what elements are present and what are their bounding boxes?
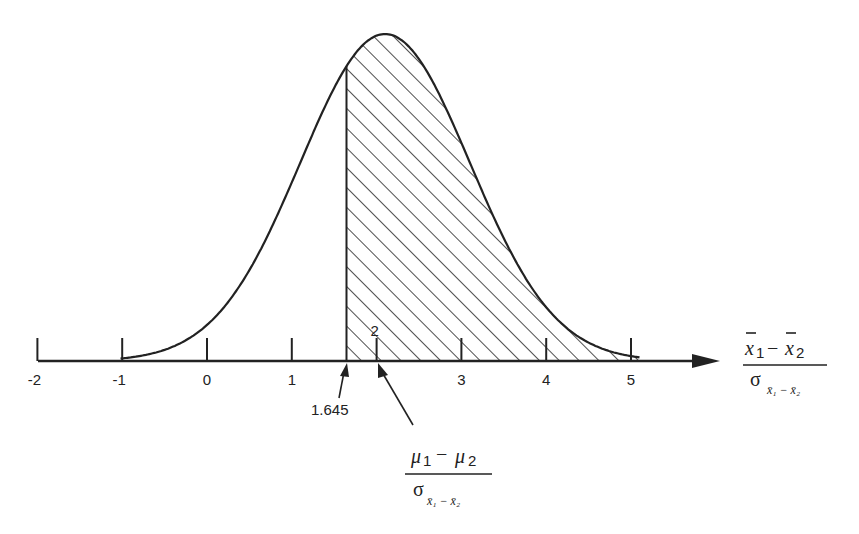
mu2: μ — [454, 445, 465, 468]
xbar1-sub: 1 — [756, 344, 764, 361]
mu2-sub: 2 — [468, 452, 476, 469]
axis-sigma-subscript: x̄₁ − x̄₂ — [766, 383, 800, 397]
tick-label: 5 — [627, 371, 635, 388]
mean-sigma: σ — [413, 478, 424, 500]
mean-pointer-line — [382, 372, 413, 425]
mu-minus: − — [436, 443, 447, 465]
mu1-sub: 1 — [423, 452, 431, 469]
tick-label: 3 — [457, 371, 465, 388]
normal-distribution-figure: -2-1012345 1.645 x 1 − x 2 σ x̄₁ − x̄₂ μ… — [0, 0, 859, 534]
tick-label: 1 — [288, 371, 296, 388]
xbar2-x: x — [784, 337, 794, 359]
tick-label: 4 — [542, 371, 550, 388]
mu1: μ — [410, 445, 421, 468]
mean-difference-label: μ 1 − μ 2 σ x̄₁ − x̄₂ — [405, 443, 492, 508]
axis-sigma: σ — [750, 368, 761, 390]
xbar1-x: x — [744, 337, 754, 359]
mean-pointer-arrowhead-icon — [378, 363, 388, 378]
xbar2-sub: 2 — [796, 344, 804, 361]
critical-value-label: 1.645 — [311, 401, 349, 418]
tick-label: 2 — [370, 322, 378, 339]
critical-pointer-arrowhead-icon — [340, 363, 349, 377]
axis-arrowhead-icon — [692, 354, 720, 368]
rejection-region-hatched — [347, 34, 640, 361]
tick-label: -1 — [113, 371, 126, 388]
tick-label: -2 — [28, 371, 41, 388]
tick-label: 0 — [203, 371, 211, 388]
axis-minus: − — [767, 337, 778, 359]
x-axis-label: x 1 − x 2 σ x̄₁ − x̄₂ — [743, 333, 827, 397]
mean-sigma-subscript: x̄₁ − x̄₂ — [426, 494, 460, 508]
